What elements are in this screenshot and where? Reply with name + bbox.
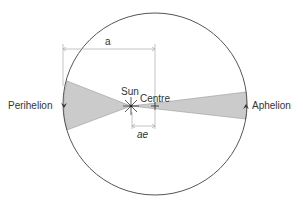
aphelion-label: Aphelion (252, 100, 291, 111)
centre-label: Centre (140, 93, 170, 104)
sun-label: Sun (121, 86, 139, 97)
semi-major-axis-label: a (105, 36, 111, 47)
sun-dot (130, 105, 133, 108)
orbit-diagram: a ae Perihelion Aphelion Sun Centre (0, 0, 303, 208)
perihelion-label: Perihelion (8, 100, 52, 111)
focal-offset-label: ae (137, 129, 149, 140)
focal-offset-dimension (132, 110, 155, 129)
